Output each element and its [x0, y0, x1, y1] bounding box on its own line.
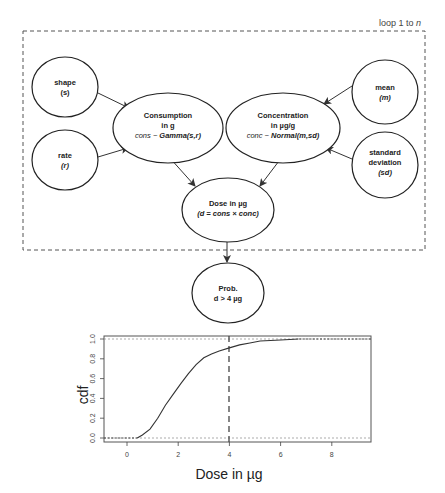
svg-text:conc ~ Normal(m,sd): conc ~ Normal(m,sd): [247, 131, 320, 140]
y-tick-label: 0.8: [89, 354, 96, 364]
y-tick-label: 0.6: [89, 374, 96, 384]
x-tick-label: 8: [330, 451, 334, 458]
y-tick-label: 0.0: [89, 433, 96, 443]
node-rate: rate (r): [32, 130, 98, 190]
svg-text:shape: shape: [54, 78, 76, 87]
svg-text:rate: rate: [58, 151, 72, 160]
svg-text:(r): (r): [61, 161, 69, 170]
y-axis-title: cdf: [75, 386, 91, 405]
svg-text:standard: standard: [369, 148, 401, 157]
svg-text:mean: mean: [375, 83, 395, 92]
svg-text:in g: in g: [161, 121, 175, 130]
x-axis: 02468: [125, 442, 334, 458]
node-standard-deviation: standard deviation (sd): [352, 132, 418, 198]
x-tick-label: 4: [227, 451, 231, 458]
loop-label: loop 1 to n: [379, 18, 421, 28]
x-axis-title: Dose in µg: [195, 466, 262, 482]
node-concentration: Concentration in µg/g conc ~ Normal(m,sd…: [226, 93, 340, 163]
y-tick-label: 0.2: [89, 413, 96, 423]
svg-text:(m): (m): [379, 93, 391, 102]
svg-text:Consumption: Consumption: [144, 111, 193, 120]
x-tick-label: 6: [279, 451, 283, 458]
edge-shape-consumption: [98, 93, 129, 108]
node-dose: Dose in µg (d = cons × conc): [182, 178, 274, 242]
edge-stddev-concentration: [326, 148, 352, 159]
y-tick-label: 1.0: [89, 334, 96, 344]
y-axis: 0.00.20.40.60.81.0: [89, 334, 104, 443]
svg-text:cons ~ Gamma(s,r): cons ~ Gamma(s,r): [135, 131, 202, 140]
edge-mean-concentration: [324, 86, 352, 104]
svg-text:deviation: deviation: [369, 158, 402, 167]
x-tick-label: 0: [125, 451, 129, 458]
node-shape: shape (s): [32, 57, 98, 117]
svg-text:(d = cons × conc): (d = cons × conc): [197, 209, 259, 218]
node-mean: mean (m): [352, 60, 418, 124]
node-consumption: Consumption in g cons ~ Gamma(s,r): [113, 93, 223, 163]
node-prob: Prob. d > 4 µg: [192, 263, 264, 323]
svg-text:Concentration: Concentration: [258, 111, 309, 120]
model-figure: loop 1 to n shape (s) rate (r) Consumpti…: [0, 0, 445, 493]
svg-text:Dose in µg: Dose in µg: [209, 199, 247, 208]
x-tick-label: 2: [176, 451, 180, 458]
plot-frame: [104, 336, 371, 442]
svg-text:Prob.: Prob.: [218, 284, 237, 293]
svg-text:(s): (s): [60, 88, 70, 97]
svg-text:in µg/g: in µg/g: [271, 121, 296, 130]
svg-text:(sd): (sd): [378, 168, 392, 177]
cdf-chart: 0.00.20.40.60.81.0 02468 cdf Dose in µg: [75, 334, 371, 482]
svg-text:d > 4 µg: d > 4 µg: [214, 294, 243, 303]
